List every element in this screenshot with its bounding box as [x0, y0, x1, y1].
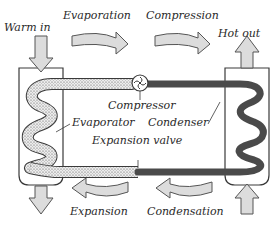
heat-pump-diagram: Warm in Evaporation Compression Hot out … [0, 0, 280, 228]
evaporation-arrow-icon [72, 32, 128, 54]
compression-arrow-icon [155, 32, 210, 54]
expansion-valve-label: Expansion valve [92, 135, 182, 146]
warm-in-arrow-icon [29, 36, 53, 72]
compressor-icon [132, 75, 148, 91]
hot-out-label: Hot out [218, 28, 260, 39]
condensation-arrow-icon [156, 178, 212, 198]
compression-label: Compression [146, 10, 219, 21]
evaporation-label: Evaporation [63, 10, 131, 21]
expansion-label: Expansion [70, 206, 128, 217]
condenser-leader [208, 102, 220, 124]
warm-in-label: Warm in [4, 22, 51, 33]
condensation-label: Condensation [147, 206, 224, 217]
cool-out-arrow-icon [29, 186, 53, 214]
condenser-label: Condenser [148, 117, 208, 128]
hot-out-arrow-icon [235, 36, 259, 68]
evaporator-label: Evaporator [72, 117, 135, 128]
expansion-arrow-icon [72, 178, 128, 198]
compressor-label: Compressor [108, 100, 175, 111]
air-in-arrow-icon [235, 184, 259, 214]
